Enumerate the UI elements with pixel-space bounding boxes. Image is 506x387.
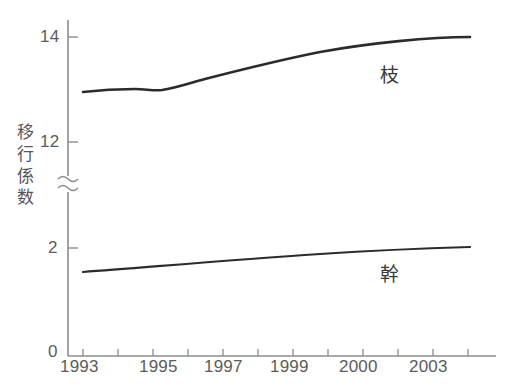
x-tick-label-1993: 1993	[60, 358, 99, 375]
series-line-trunk	[83, 247, 470, 272]
y-axis-title-char-3: 係	[14, 166, 36, 188]
series-label-trunk: 幹	[380, 259, 399, 286]
y-axis-title-char-1: 移	[14, 122, 36, 144]
axis-break-icon	[58, 177, 78, 191]
x-tick-label-1999: 1999	[270, 358, 309, 375]
x-tick-marks	[83, 349, 468, 356]
x-tick-label-1995: 1995	[139, 358, 178, 375]
y-tick-label-12: 12	[40, 133, 59, 150]
y-tick-label-0: 0	[48, 343, 58, 360]
x-tick-label-2000: 2000	[339, 358, 378, 375]
x-tick-label-1997: 1997	[204, 358, 243, 375]
y-axis-title: 移 行 係 数	[14, 122, 36, 209]
chart-container: 移 行 係 数 14 12 2 0 1993 1995 1997 1999 20…	[0, 0, 506, 387]
y-axis-title-char-2: 行	[14, 144, 36, 166]
y-axis-title-char-4: 数	[14, 187, 36, 209]
series-line-branch	[83, 37, 470, 92]
series-label-branch: 枝	[380, 60, 399, 87]
y-tick-label-2: 2	[48, 239, 58, 256]
chart-canvas	[0, 0, 506, 387]
x-tick-label-2003: 2003	[409, 358, 448, 375]
y-tick-label-14: 14	[40, 28, 59, 45]
